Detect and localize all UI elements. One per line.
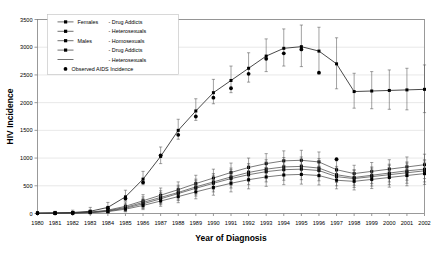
x-tick-label: 1988 xyxy=(172,220,184,226)
x-axis: 1980198119821983198419851986198719881989… xyxy=(31,214,430,226)
x-tick-label: 1992 xyxy=(242,220,254,226)
data-point-marker xyxy=(142,204,145,207)
hiv-incidence-chart: 0500100015002000250030003500HIV Incidenc… xyxy=(0,0,438,259)
data-point-marker xyxy=(317,50,320,53)
observed-point-marker xyxy=(229,86,233,90)
data-point-marker xyxy=(124,208,127,211)
observed-point-marker xyxy=(106,206,110,210)
x-tick-label: 2000 xyxy=(383,220,395,226)
x-tick-label: 1989 xyxy=(190,220,202,226)
x-tick-label: 1983 xyxy=(84,220,96,226)
observed-point-marker xyxy=(317,71,321,75)
observed-point-marker xyxy=(335,157,339,161)
data-point-marker xyxy=(247,178,250,181)
x-tick-label: 1999 xyxy=(366,220,378,226)
legend-group-label: Males xyxy=(78,38,93,44)
data-point-marker xyxy=(370,178,373,181)
x-tick-label: 1985 xyxy=(119,220,131,226)
data-point-marker xyxy=(353,180,356,183)
legend-square-icon xyxy=(64,49,67,52)
legend-square-icon xyxy=(64,30,67,33)
legend-entry-label: - Homosexuals xyxy=(109,38,145,44)
legend-entry-label: Observed AIDS Incidence xyxy=(72,66,134,72)
data-point-marker xyxy=(353,90,356,93)
legend-dot-icon xyxy=(64,67,68,71)
observed-point-marker xyxy=(247,72,251,76)
data-point-marker xyxy=(247,67,250,70)
data-point-marker xyxy=(370,90,373,93)
x-tick-label: 1991 xyxy=(225,220,237,226)
x-tick-label: 1990 xyxy=(207,220,219,226)
x-tick-label: 1996 xyxy=(313,220,325,226)
data-point-marker xyxy=(423,88,426,91)
data-point-marker xyxy=(388,176,391,179)
legend-entry-label: - Drug Addicts xyxy=(109,19,143,25)
legend-entry-label: - Drug Addicts xyxy=(109,47,143,53)
data-point-marker xyxy=(177,129,180,132)
observed-point-marker xyxy=(212,96,216,100)
legend-item-observed-aids-incidence[interactable]: Observed AIDS Incidence xyxy=(64,66,134,72)
y-axis: 0500100015002000250030003500 xyxy=(20,17,37,217)
x-tick-label: 1982 xyxy=(66,220,78,226)
x-tick-label: 1986 xyxy=(137,220,149,226)
data-point-marker xyxy=(212,91,215,94)
observed-point-marker xyxy=(264,57,268,61)
observed-point-marker xyxy=(159,153,163,157)
legend-square-icon xyxy=(64,20,67,23)
data-point-marker xyxy=(388,89,391,92)
data-point-marker xyxy=(405,174,408,177)
x-tick-label: 1984 xyxy=(102,220,114,226)
data-point-marker xyxy=(230,182,233,185)
x-tick-label: 1994 xyxy=(278,220,290,226)
x-tick-label: 1998 xyxy=(348,220,360,226)
y-tick-label: 2000 xyxy=(20,100,32,106)
x-axis-title: Year of Diagnosis xyxy=(195,233,267,243)
observed-point-marker xyxy=(141,181,145,185)
x-tick-label: 2001 xyxy=(401,220,413,226)
y-tick-label: 1500 xyxy=(20,127,32,133)
data-point-marker xyxy=(423,172,426,175)
data-point-marker xyxy=(335,179,338,182)
y-tick-label: 3000 xyxy=(20,44,32,50)
observed-point-marker xyxy=(88,210,92,214)
data-point-marker xyxy=(335,62,338,65)
data-point-marker xyxy=(282,47,285,50)
data-point-marker xyxy=(159,200,162,203)
x-tick-label: 1995 xyxy=(295,220,307,226)
y-tick-label: 3500 xyxy=(20,17,32,23)
observed-point-marker xyxy=(71,211,75,215)
legend: Females- Drug Addicts- HeterosexualsMale… xyxy=(48,15,179,75)
data-point-marker xyxy=(230,79,233,82)
observed-point-marker xyxy=(53,211,57,215)
legend-entry-label: - Heterosexuals xyxy=(109,57,147,63)
x-tick-label: 1987 xyxy=(154,220,166,226)
data-point-marker xyxy=(194,109,197,112)
data-point-marker xyxy=(194,190,197,193)
observed-point-marker xyxy=(36,211,40,215)
x-tick-label: 2002 xyxy=(418,220,430,226)
observed-point-marker xyxy=(282,51,286,55)
x-tick-label: 1981 xyxy=(49,220,61,226)
y-tick-label: 1000 xyxy=(20,155,32,161)
chart-figure: 0500100015002000250030003500HIV Incidenc… xyxy=(0,0,438,259)
data-point-marker xyxy=(142,178,145,181)
data-point-marker xyxy=(282,173,285,176)
legend-square-icon xyxy=(64,39,67,42)
legend-entry-label: - Heterosexuals xyxy=(109,28,147,34)
y-tick-label: 0 xyxy=(29,211,32,217)
data-point-marker xyxy=(265,175,268,178)
observed-point-marker xyxy=(194,115,198,119)
y-tick-label: 500 xyxy=(23,183,32,189)
data-point-marker xyxy=(177,195,180,198)
y-axis-title: HIV Incidence xyxy=(5,88,15,144)
y-tick-label: 2500 xyxy=(20,72,32,78)
data-point-marker xyxy=(317,174,320,177)
observed-point-marker xyxy=(176,133,180,137)
observed-point-marker xyxy=(124,197,128,201)
data-point-marker xyxy=(405,88,408,91)
x-tick-label: 1993 xyxy=(260,220,272,226)
legend-group-label: Females xyxy=(78,19,99,25)
x-tick-label: 1997 xyxy=(330,220,342,226)
data-point-marker xyxy=(106,210,109,213)
data-point-marker xyxy=(212,186,215,189)
